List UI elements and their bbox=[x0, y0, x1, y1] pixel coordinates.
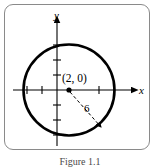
radius-length-label: 6 bbox=[84, 102, 90, 114]
figure-caption: Figure 1.1 bbox=[0, 156, 160, 167]
coordinate-plot: (2, 0) 6 y x bbox=[0, 0, 160, 167]
center-point-label: (2, 0) bbox=[62, 72, 87, 85]
center-point-marker bbox=[66, 87, 71, 92]
figure-container: (2, 0) 6 y x Figure 1.1 bbox=[0, 0, 160, 167]
x-axis-label: x bbox=[138, 84, 144, 96]
y-axis-label: y bbox=[53, 9, 59, 21]
